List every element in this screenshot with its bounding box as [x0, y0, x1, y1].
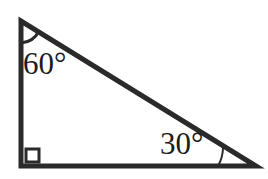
triangle-figure: 60° 30° — [0, 0, 268, 179]
angle-label-60: 60° — [23, 48, 66, 79]
triangle-drawing — [0, 0, 268, 179]
angle-label-30: 30° — [160, 128, 203, 159]
